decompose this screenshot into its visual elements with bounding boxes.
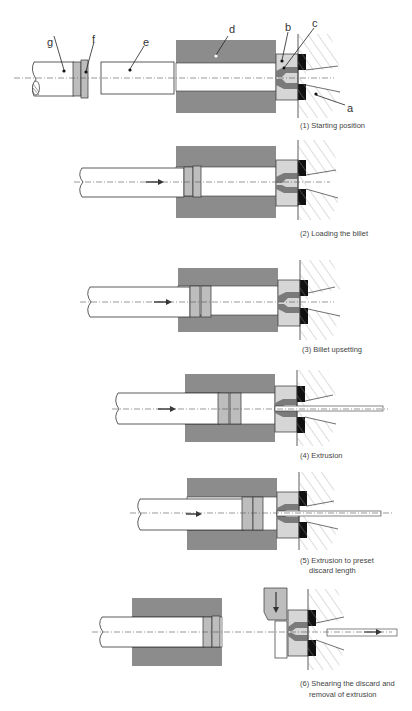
label-c: c: [312, 17, 318, 29]
caption-step-5-line-1: (5) Extrusion to preset: [300, 556, 375, 565]
caption-step-1: (1) Starting position: [300, 121, 365, 130]
extrusion-diagram: g f e d b c a (1) Starting position (2) …: [0, 0, 412, 711]
label-a: a: [347, 102, 354, 114]
label-e: e: [143, 36, 149, 48]
step-5-extrusion-to-discard: (5) Extrusion to preset discard length: [130, 472, 392, 575]
step-3-billet-upsetting: (3) Billet upsetting: [80, 260, 362, 354]
dummy-block-f: [73, 62, 81, 96]
step-4-extrusion: (4) Extrusion: [112, 370, 388, 460]
caption-step-5-line-2: discard length: [309, 566, 356, 575]
tool-a: [298, 34, 340, 118]
label-d: d: [229, 23, 235, 35]
step-1-starting-position: g f e d b c a (1) Starting position: [14, 17, 365, 130]
caption-step-6-line-2: removal of extrusion: [309, 690, 377, 699]
caption-step-4: (4) Extrusion: [300, 451, 343, 460]
label-b: b: [285, 21, 291, 33]
caption-step-2: (2) Loading the billet: [300, 229, 369, 238]
caption-step-3: (3) Billet upsetting: [302, 345, 362, 354]
label-f: f: [92, 33, 96, 45]
caption-step-6-line-1: (6) Shearing the discard and: [300, 679, 395, 688]
step-6-shearing: (6) Shearing the discard and removal of …: [92, 588, 397, 699]
extruded-profile: [275, 406, 383, 411]
step-2-loading-billet: (2) Loading the billet: [74, 140, 369, 238]
label-g: g: [47, 36, 53, 48]
